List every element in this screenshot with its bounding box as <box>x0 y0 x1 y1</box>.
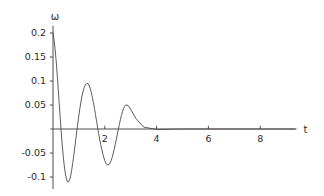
y-tick-label: 0.15 <box>25 51 46 62</box>
plot-canvas: 2468 t 0.20.150.10.05-0.05-0.1 ω <box>0 0 324 196</box>
x-axis-label: t <box>303 124 307 135</box>
x-tick-label: 6 <box>205 133 211 144</box>
y-tick-label: 0.2 <box>31 27 46 38</box>
y-axis-label: ω <box>51 11 59 22</box>
damped-oscillation-plot: 2468 t 0.20.150.10.05-0.05-0.1 ω <box>0 0 324 196</box>
y-tick-label: 0.05 <box>25 99 46 110</box>
data-curve <box>53 33 295 182</box>
y-tick-label: 0.1 <box>31 75 46 86</box>
y-tick-label: -0.1 <box>27 171 46 182</box>
x-axis-group: 2468 t <box>50 124 307 144</box>
y-tick-label: -0.05 <box>21 147 46 158</box>
y-axis-ticks: 0.20.150.10.05-0.05-0.1 <box>21 27 53 182</box>
data-series-group <box>53 33 295 182</box>
x-axis-ticks: 2468 <box>102 126 263 144</box>
x-tick-label: 2 <box>102 133 108 144</box>
x-tick-label: 8 <box>257 133 263 144</box>
x-tick-label: 4 <box>154 133 160 144</box>
